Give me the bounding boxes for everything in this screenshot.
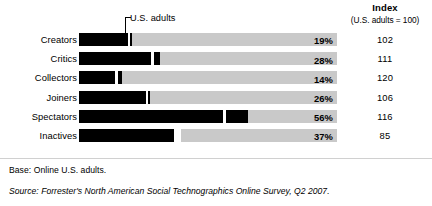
source-note: Source: Forrester's North American Socia… xyxy=(9,186,330,196)
bar-gap xyxy=(174,129,181,142)
index-value: 85 xyxy=(338,130,432,141)
us-adults-benchmark-tick xyxy=(118,71,122,84)
bar-track: 26% xyxy=(79,91,337,104)
bar-value-label: 28% xyxy=(314,55,333,66)
bar-track: 28% xyxy=(79,52,337,65)
bar-value-label: 26% xyxy=(314,93,333,104)
bar-fill xyxy=(79,52,151,65)
us-adults-benchmark-tick xyxy=(154,52,161,65)
row-label-critics: Critics xyxy=(51,53,77,64)
bar-track: 56% xyxy=(79,110,337,123)
table-row: Inactives37%85 xyxy=(0,127,432,146)
index-value: 102 xyxy=(338,34,432,45)
index-value: 111 xyxy=(338,53,432,64)
row-label-creators: Creators xyxy=(41,34,77,45)
bar-track: 37% xyxy=(79,129,337,142)
row-label-spectators: Spectators xyxy=(32,111,77,122)
bar-rows: Creators19%102Critics28%111Collectors14%… xyxy=(0,31,432,146)
index-value: 116 xyxy=(338,111,432,122)
us-adults-annotation-label: U.S. adults xyxy=(130,13,176,23)
bar-track: 14% xyxy=(79,71,337,84)
base-note: Base: Online U.S. adults. xyxy=(9,165,106,175)
row-label-joiners: Joiners xyxy=(46,92,77,103)
index-value: 120 xyxy=(338,72,432,83)
bar-fill xyxy=(79,91,146,104)
us-adults-benchmark-tick xyxy=(226,110,248,123)
bar-fill xyxy=(79,33,128,46)
row-label-inactives: Inactives xyxy=(40,130,77,141)
bar-value-label: 14% xyxy=(314,74,333,85)
bar-value-label: 56% xyxy=(314,112,333,123)
bar-fill xyxy=(79,110,223,123)
bar-value-label: 37% xyxy=(314,131,333,142)
footer-divider xyxy=(0,158,432,159)
index-value: 106 xyxy=(338,92,432,103)
row-label-collectors: Collectors xyxy=(35,72,77,83)
table-row: Creators19%102 xyxy=(0,31,432,50)
table-row: Collectors14%120 xyxy=(0,69,432,88)
bar-fill xyxy=(79,129,174,142)
us-adults-benchmark-tick xyxy=(130,33,132,46)
table-row: Joiners26%106 xyxy=(0,89,432,108)
table-row: Critics28%111 xyxy=(0,50,432,69)
index-header-title: Index xyxy=(338,2,432,14)
bar-fill xyxy=(79,71,115,84)
bar-value-label: 19% xyxy=(314,35,333,46)
us-adults-benchmark-tick xyxy=(148,91,150,104)
index-header-subtitle: (U.S. adults = 100) xyxy=(338,14,432,26)
table-row: Spectators56%116 xyxy=(0,108,432,127)
social-technographics-ladder-chart: Index (U.S. adults = 100) U.S. adults Cr… xyxy=(0,0,432,206)
bar-track: 19% xyxy=(79,33,337,46)
index-column-header: Index (U.S. adults = 100) xyxy=(338,2,432,26)
